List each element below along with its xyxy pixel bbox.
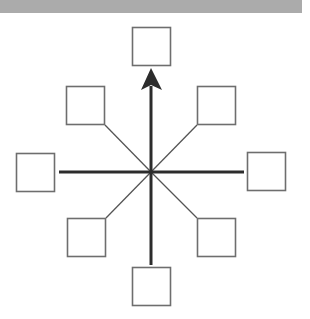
- connector-top-left: [105, 125, 151, 172]
- connector-top-right: [151, 125, 197, 172]
- node-bottom: [133, 268, 171, 306]
- node-right: [248, 153, 286, 191]
- node-bottom-right: [198, 219, 236, 257]
- connector-bottom-right: [151, 172, 197, 218]
- node-top-left: [67, 87, 105, 125]
- radial-diagram: [0, 0, 310, 319]
- connector-bottom-left: [106, 172, 151, 218]
- node-top: [133, 28, 171, 66]
- node-top-right: [198, 87, 236, 125]
- node-left: [17, 154, 55, 192]
- node-bottom-left: [68, 219, 106, 257]
